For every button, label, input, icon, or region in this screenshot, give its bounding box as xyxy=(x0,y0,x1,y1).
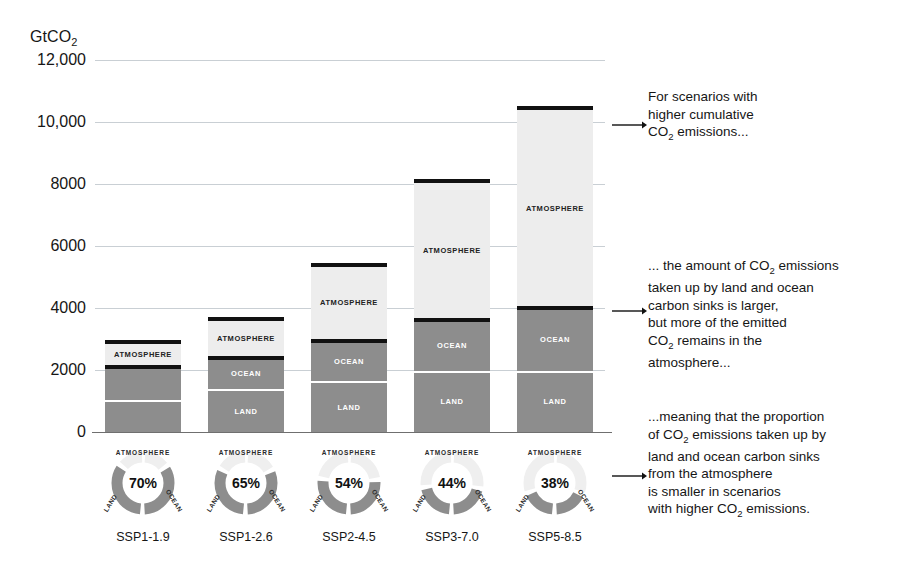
annotation-text-tail: emissions xyxy=(775,258,839,273)
annotation-text-tail: remains in the xyxy=(674,333,763,348)
bar-total-marker xyxy=(311,263,387,267)
land-ocean-divider xyxy=(311,381,387,383)
donut-ssp1-2.6[interactable]: 65%ATMOSPHERELANDOCEANSSP1-2.6 xyxy=(194,444,298,522)
y-axis-tick-label: 2000 xyxy=(0,362,86,378)
annotation-middle-line: CO2 remains in the xyxy=(648,332,839,354)
chart-figure: GtCO2 12,00010,00080006000400020000 ATMO… xyxy=(0,0,900,568)
annotation-top-line: CO2 emissions... xyxy=(648,123,758,145)
bar-ssp1-1.9[interactable]: ATMOSPHERE xyxy=(105,342,181,432)
bar-segment-atmosphere-label: ATMOSPHERE xyxy=(526,204,584,213)
y-axis-tick-label: 10,000 xyxy=(0,114,86,130)
bar-ssp2-4.5[interactable]: LANDOCEANATMOSPHERE xyxy=(311,265,387,432)
bar-ssp3-7.0[interactable]: LANDOCEANATMOSPHERE xyxy=(414,181,490,432)
bar-segment-ocean[interactable]: OCEAN xyxy=(414,320,490,371)
bar-segment-ocean-label: OCEAN xyxy=(334,357,364,366)
annotation-arrow-icon xyxy=(612,119,648,131)
bar-ssp5-8.5[interactable]: LANDOCEANATMOSPHERE xyxy=(517,108,593,432)
annotation-arrow-icon xyxy=(612,470,648,482)
donut-label-atmosphere: ATMOSPHERE xyxy=(528,449,582,456)
bar-segment-ocean-label: OCEAN xyxy=(437,341,467,350)
donut-ssp5-8.5[interactable]: 38%ATMOSPHERELANDOCEANSSP5-8.5 xyxy=(503,444,607,522)
annotation-bottom-line: of CO2 emissions taken up by xyxy=(648,426,826,448)
donut-chart: 54%ATMOSPHERELANDOCEAN xyxy=(316,450,382,516)
y-axis-tick-label: 0 xyxy=(0,424,86,440)
annotation-bottom: ...meaning that the proportionof CO2 emi… xyxy=(648,408,826,522)
bar-segment-land[interactable] xyxy=(105,401,181,432)
y-axis-tick-label: 12,000 xyxy=(0,52,86,68)
annotation-bottom-line: from the atmosphere xyxy=(648,465,826,483)
bar-segment-land-label: LAND xyxy=(543,397,566,406)
bar-total-marker xyxy=(105,340,181,344)
annotation-middle-line: atmosphere... xyxy=(648,354,839,372)
land-ocean-divider xyxy=(208,389,284,391)
bar-segment-atmosphere-label: ATMOSPHERE xyxy=(217,334,275,343)
donut-chart: 38%ATMOSPHERELANDOCEAN xyxy=(522,450,588,516)
bar-segment-ocean[interactable] xyxy=(105,367,181,401)
annotation-middle-line: but more of the emitted xyxy=(648,314,839,332)
y-axis-tick-label: 4000 xyxy=(0,300,86,316)
annotation-text-tail: emissions taken up by xyxy=(689,427,826,442)
bar-segment-atmosphere[interactable]: ATMOSPHERE xyxy=(414,181,490,321)
donut-percent-label: 65% xyxy=(213,450,279,516)
bar-segment-ocean[interactable]: OCEAN xyxy=(208,358,284,391)
annotation-bottom-line: ...meaning that the proportion xyxy=(648,408,826,426)
annotation-text: of CO xyxy=(648,427,683,442)
annotation-text-tail: emissions. xyxy=(743,501,811,516)
donut-chart: 65%ATMOSPHERELANDOCEAN xyxy=(213,450,279,516)
annotation-top-line: higher cumulative xyxy=(648,106,758,124)
bar-segment-land-label: LAND xyxy=(337,403,360,412)
bar-segment-ocean[interactable]: OCEAN xyxy=(517,308,593,372)
donut-percent-label: 54% xyxy=(316,450,382,516)
annotation-bottom-line: is smaller in scenarios xyxy=(648,483,826,501)
annotation-text: CO xyxy=(648,333,668,348)
bar-segment-atmosphere-label: ATMOSPHERE xyxy=(320,298,378,307)
sink-top-marker xyxy=(517,306,593,310)
bar-segment-ocean[interactable]: OCEAN xyxy=(311,341,387,383)
y-axis-unit-subscript: 2 xyxy=(71,36,77,48)
sink-top-marker xyxy=(105,365,181,369)
annotation-middle-line: taken up by land and ocean xyxy=(648,279,839,297)
annotation-text: ... the amount of CO xyxy=(648,258,770,273)
bar-segment-land[interactable]: LAND xyxy=(517,372,593,432)
bar-segment-atmosphere[interactable]: ATMOSPHERE xyxy=(517,108,593,308)
land-ocean-divider xyxy=(517,371,593,373)
bar-segment-land-label: LAND xyxy=(440,397,463,406)
annotation-middle-line: ... the amount of CO2 emissions xyxy=(648,257,839,279)
bar-ssp1-2.6[interactable]: LANDOCEANATMOSPHERE xyxy=(208,319,284,432)
x-axis-label: SSP1-1.9 xyxy=(91,530,195,544)
donut-ssp2-4.5[interactable]: 54%ATMOSPHERELANDOCEANSSP2-4.5 xyxy=(297,444,401,522)
annotation-text: with higher CO xyxy=(648,501,737,516)
y-axis-tick-label: 6000 xyxy=(0,238,86,254)
bar-segment-ocean-label: OCEAN xyxy=(540,335,570,344)
bar-total-marker xyxy=(208,317,284,321)
bar-segment-atmosphere[interactable]: ATMOSPHERE xyxy=(208,319,284,358)
y-axis-unit-text: GtCO xyxy=(30,28,71,45)
axis-baseline xyxy=(92,432,612,433)
y-axis-unit-label: GtCO2 xyxy=(30,28,78,48)
bar-segment-atmosphere[interactable]: ATMOSPHERE xyxy=(311,265,387,341)
land-ocean-divider xyxy=(414,371,490,373)
donut-label-atmosphere: ATMOSPHERE xyxy=(425,449,479,456)
donut-ssp3-7.0[interactable]: 44%ATMOSPHERELANDOCEANSSP3-7.0 xyxy=(400,444,504,522)
bar-segment-land-label: LAND xyxy=(234,407,257,416)
annotation-middle: ... the amount of CO2 emissionstaken up … xyxy=(648,257,839,371)
bar-segment-atmosphere-label: ATMOSPHERE xyxy=(114,350,172,359)
bar-segment-land[interactable]: LAND xyxy=(208,390,284,432)
annotation-text: CO xyxy=(648,124,668,139)
annotation-bottom-line: with higher CO2 emissions. xyxy=(648,500,826,522)
x-axis-label: SSP2-4.5 xyxy=(297,530,401,544)
donut-chart: 44%ATMOSPHERELANDOCEAN xyxy=(419,450,485,516)
land-ocean-divider xyxy=(105,400,181,402)
x-axis-label: SSP1-2.6 xyxy=(194,530,298,544)
annotation-top-line: For scenarios with xyxy=(648,88,758,106)
donut-chart: 70%ATMOSPHERELANDOCEAN xyxy=(110,450,176,516)
bar-total-marker xyxy=(414,179,490,183)
sink-top-marker xyxy=(208,356,284,360)
bar-segment-atmosphere[interactable]: ATMOSPHERE xyxy=(105,342,181,367)
sink-top-marker xyxy=(414,318,490,322)
donut-ssp1-1.9[interactable]: 70%ATMOSPHERELANDOCEANSSP1-1.9 xyxy=(91,444,195,522)
bar-total-marker xyxy=(517,106,593,110)
donut-label-atmosphere: ATMOSPHERE xyxy=(219,449,273,456)
bar-segment-land[interactable]: LAND xyxy=(311,382,387,432)
bar-segment-land[interactable]: LAND xyxy=(414,372,490,432)
